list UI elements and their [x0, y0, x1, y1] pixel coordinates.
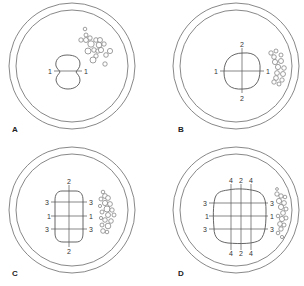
bubble-cluster: [98, 190, 116, 234]
label-h3a-right: 3: [89, 199, 93, 206]
label-h3b-left: 3: [203, 226, 207, 233]
label-h1-left: 1: [47, 213, 51, 220]
label-h3a-right: 3: [270, 200, 274, 207]
panel-a: 1 1 A: [9, 3, 135, 134]
label-h3b-right: 3: [270, 226, 274, 233]
panel-label-d: D: [178, 269, 184, 278]
label-h1-left: 1: [205, 213, 209, 220]
label-h3b-right: 3: [89, 226, 93, 233]
panel-label-a: A: [12, 125, 18, 134]
label-h1-left: 1: [214, 68, 218, 75]
label-v2-bottom: 2: [239, 250, 243, 257]
label-v2-bottom: 2: [67, 248, 71, 255]
label-v4a-bottom: 4: [229, 250, 233, 257]
label-h1-right: 1: [266, 68, 270, 75]
label-v4b-bottom: 4: [249, 250, 253, 257]
label-h1-left: 1: [48, 68, 52, 75]
dish-inner-rim: [180, 10, 292, 122]
panel-c: 3 3 1 1 3 3 2 2 C: [9, 147, 135, 278]
label-v1-top: 2: [240, 41, 244, 48]
dish-outer-rim: [173, 147, 299, 273]
panel-b: 1 1 2 2 B: [173, 3, 299, 134]
panel-label-c: C: [12, 269, 18, 278]
label-h1-right: 1: [84, 68, 88, 75]
bubble-cluster: [269, 49, 287, 86]
label-v2-top: 2: [239, 177, 243, 184]
dish-inner-rim: [16, 10, 128, 122]
label-h3b-left: 3: [45, 226, 49, 233]
label-v2-top: 2: [67, 178, 71, 185]
bubble-cluster: [79, 27, 113, 66]
label-v1-bottom: 2: [240, 95, 244, 102]
petri-dish-figure: 1 1 A: [0, 0, 304, 286]
label-v4b-top: 4: [249, 177, 253, 184]
bubble-cluster: [275, 188, 288, 239]
label-h3a-left: 3: [203, 200, 207, 207]
panel-label-b: B: [178, 125, 184, 134]
dish-outer-rim: [9, 3, 135, 129]
panel-d: 3 3 1 1 3 3 4 2 4 4 2 4: [173, 147, 299, 278]
label-h1-right: 1: [270, 213, 274, 220]
dish-inner-rim: [180, 154, 292, 266]
dish-outer-rim: [9, 147, 135, 273]
label-v4a-top: 4: [229, 177, 233, 184]
colony-outline: [56, 55, 80, 89]
label-h3a-left: 3: [45, 199, 49, 206]
label-h1-right: 1: [89, 213, 93, 220]
